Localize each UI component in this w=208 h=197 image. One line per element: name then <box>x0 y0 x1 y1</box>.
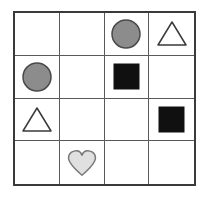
grid-cell-r2c3[interactable] <box>105 56 150 99</box>
triangle-icon <box>155 18 189 50</box>
grid-cell-r3c2[interactable] <box>60 99 105 142</box>
empty-cell-content <box>65 103 99 135</box>
grid-cell-r1c4[interactable] <box>149 13 194 56</box>
shape-grid <box>13 11 196 186</box>
grid-cell-r1c2[interactable] <box>60 13 105 56</box>
grid-cell-r4c2[interactable] <box>60 141 105 184</box>
grid-cell-r1c3[interactable] <box>105 13 150 56</box>
empty-cell-content <box>20 147 54 179</box>
heart-icon <box>65 147 99 179</box>
grid-cell-r2c2[interactable] <box>60 56 105 99</box>
empty-cell-content <box>65 61 99 93</box>
circle-icon <box>20 61 54 93</box>
grid-cell-r2c1[interactable] <box>15 56 60 99</box>
square-icon <box>155 103 189 135</box>
empty-cell-content <box>20 18 54 50</box>
empty-cell-content <box>155 147 189 179</box>
grid-cell-r4c3[interactable] <box>105 141 150 184</box>
grid-cell-r2c4[interactable] <box>149 56 194 99</box>
grid-cell-r4c4[interactable] <box>149 141 194 184</box>
triangle-icon <box>20 103 54 135</box>
empty-cell-content <box>155 61 189 93</box>
square-icon <box>109 61 143 93</box>
circle-icon <box>109 18 143 50</box>
empty-cell-content <box>109 103 143 135</box>
empty-cell-content <box>109 147 143 179</box>
grid-cell-r1c1[interactable] <box>15 13 60 56</box>
empty-cell-content <box>65 18 99 50</box>
grid-cell-r3c1[interactable] <box>15 99 60 142</box>
shape-grid-canvas <box>0 0 208 197</box>
grid-cell-r3c3[interactable] <box>105 99 150 142</box>
grid-cell-r4c1[interactable] <box>15 141 60 184</box>
grid-cell-r3c4[interactable] <box>149 99 194 142</box>
